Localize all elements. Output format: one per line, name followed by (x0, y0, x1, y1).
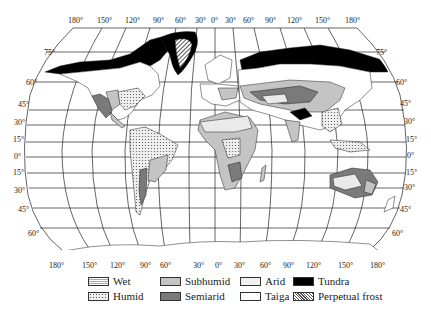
left-latitude-labels: 75° 60° 45° 30° 15° 0° 15° 30° 45° 60° (13, 48, 55, 238)
svg-text:0°: 0° (407, 151, 414, 160)
legend-item-taiga: Taiga (240, 290, 289, 302)
svg-text:45°: 45° (400, 205, 411, 214)
legend-label: Taiga (265, 290, 289, 302)
svg-text:75°: 75° (44, 48, 55, 57)
world-climate-map: 180° 150° 120° 90° 60° 30° 0° 30° 60° 90… (0, 0, 431, 319)
madagascar (260, 165, 266, 182)
legend-item-semiarid: Semiarid (160, 290, 225, 302)
legend-item-humid: Humid (88, 290, 144, 302)
svg-text:60°: 60° (392, 229, 403, 238)
svg-text:15°: 15° (13, 135, 24, 144)
svg-text:0°: 0° (211, 16, 218, 25)
india (285, 120, 300, 142)
legend-item-tundra: Tundra (293, 275, 349, 287)
legend-label: Perpetual frost (318, 290, 382, 302)
wet-swatch-icon (88, 277, 109, 286)
svg-text:60°: 60° (26, 78, 37, 87)
svg-text:90°: 90° (153, 16, 164, 25)
legend-label: Wet (113, 275, 130, 287)
scandinavia (205, 55, 232, 84)
svg-text:120°: 120° (306, 261, 321, 270)
svg-text:60°: 60° (396, 78, 407, 87)
svg-text:45°: 45° (400, 99, 411, 108)
svg-text:150°: 150° (315, 16, 330, 25)
legend-item-perpetual-frost: Perpetual frost (293, 290, 382, 302)
bottom-longitude-labels: 180° 150° 120° 90° 60° 30° 0° 30° 60° 90… (49, 261, 385, 270)
svg-text:150°: 150° (97, 16, 112, 25)
legend-item-wet: Wet (88, 275, 130, 287)
tundra-swatch-icon (293, 277, 314, 286)
perpetual-frost-swatch-icon (293, 292, 314, 301)
svg-text:120°: 120° (125, 16, 140, 25)
top-longitude-labels: 180° 150° 120° 90° 60° 30° 0° 30° 60° 90… (68, 16, 360, 25)
svg-text:30°: 30° (195, 16, 206, 25)
svg-text:180°: 180° (49, 261, 64, 270)
svg-text:150°: 150° (338, 261, 353, 270)
legend-item-subhumid: Subhumid (160, 275, 230, 287)
svg-text:30°: 30° (14, 118, 25, 127)
right-latitude-labels: 75° 60° 45° 30° 15° 0° 15° 30° 45° 60° (376, 48, 417, 238)
svg-text:75°: 75° (376, 48, 387, 57)
svg-text:90°: 90° (265, 16, 276, 25)
taiga-swatch-icon (240, 292, 261, 301)
svg-text:30°: 30° (234, 261, 245, 270)
legend-label: Semiarid (185, 290, 225, 302)
south-america-semiarid (139, 168, 147, 205)
svg-text:0°: 0° (14, 152, 21, 161)
svg-text:60°: 60° (160, 261, 171, 270)
legend: Wet Humid Subhumid Semiarid Arid Taiga T… (88, 275, 388, 315)
svg-text:30°: 30° (14, 186, 25, 195)
svg-text:180°: 180° (68, 16, 83, 25)
svg-text:30°: 30° (404, 117, 415, 126)
svg-text:0°: 0° (215, 261, 222, 270)
svg-text:30°: 30° (404, 183, 415, 192)
svg-text:60°: 60° (175, 16, 186, 25)
legend-item-arid: Arid (240, 275, 285, 287)
svg-text:30°: 30° (193, 261, 204, 270)
svg-text:15°: 15° (406, 135, 417, 144)
svg-text:60°: 60° (243, 16, 254, 25)
svg-text:120°: 120° (110, 261, 125, 270)
svg-text:150°: 150° (82, 261, 97, 270)
legend-label: Tundra (318, 275, 349, 287)
humid-swatch-icon (88, 292, 109, 301)
svg-text:90°: 90° (283, 261, 294, 270)
legend-label: Subhumid (185, 275, 230, 287)
svg-text:30°: 30° (225, 16, 236, 25)
svg-text:45°: 45° (18, 205, 29, 214)
north-america-humid (118, 88, 145, 110)
new-zealand (384, 196, 395, 212)
svg-text:60°: 60° (28, 229, 39, 238)
svg-text:90°: 90° (140, 261, 151, 270)
arid-swatch-icon (240, 277, 261, 286)
svg-text:180°: 180° (370, 261, 385, 270)
legend-label: Arid (265, 275, 285, 287)
legend-label: Humid (113, 290, 144, 302)
svg-text:180°: 180° (345, 16, 360, 25)
svg-text:60°: 60° (260, 261, 271, 270)
svg-text:45°: 45° (18, 100, 29, 109)
svg-text:120°: 120° (287, 16, 302, 25)
svg-text:15°: 15° (13, 168, 24, 177)
subhumid-swatch-icon (160, 277, 181, 286)
svg-text:15°: 15° (406, 168, 417, 177)
semiarid-swatch-icon (160, 292, 181, 301)
south-asia-humid (322, 108, 342, 132)
